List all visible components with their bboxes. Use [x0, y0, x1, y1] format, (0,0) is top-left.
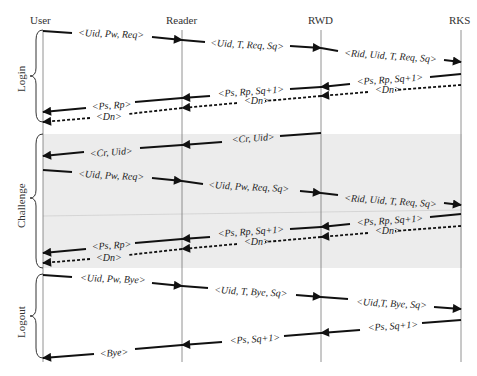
msg-label: <Ps, Sq+1>: [229, 332, 280, 346]
msg-label: <Dn>: [375, 84, 401, 95]
phase-challenge: Challenge: [15, 183, 27, 228]
msg-label: <Dn>: [375, 225, 401, 236]
actor-rks: RKS: [449, 14, 470, 26]
msg-label: <Bye>: [99, 346, 128, 359]
msg-label: <Dn>: [96, 252, 122, 263]
msg-label: <Dn>: [244, 95, 270, 106]
login-messages: <Uid, Pw, Req> <Uid, T, Req, Sq> <Rid, U…: [43, 27, 461, 122]
logout-messages: <Uid, Pw, Bye> <Uid, T, Bye, Sq> <Uid,T,…: [43, 272, 461, 359]
msg-label: <Rid, Uid, T, Req, Sq>: [344, 47, 437, 64]
actor-rwd: RWD: [308, 14, 333, 26]
msg-label: <Dn>: [96, 111, 122, 122]
actor-reader: Reader: [166, 14, 197, 26]
sequence-diagram: User Reader RWD RKS Login Challenge Logo…: [0, 0, 477, 376]
phase-logout: Logout: [15, 306, 27, 338]
msg-label: <Uid, T, Bye, Sq>: [214, 284, 288, 299]
msg-label: <Uid,T, Bye, Sq>: [356, 296, 427, 311]
actor-user: User: [30, 14, 51, 26]
msg-label: <Dn>: [244, 236, 270, 247]
brace-login: [30, 30, 43, 122]
msg-label: <Uid, Pw, Req>: [78, 27, 144, 40]
brace-challenge: [30, 134, 43, 268]
brace-logout: [30, 274, 43, 358]
msg-label: <Ps, Rp>: [91, 98, 131, 112]
msg-label: <Ps, Sq+1>: [367, 319, 418, 333]
msg-label: <Uid, Pw, Bye>: [80, 272, 146, 285]
phase-login: Login: [15, 65, 27, 92]
msg-label: <Uid, T, Req, Sq>: [210, 37, 284, 52]
